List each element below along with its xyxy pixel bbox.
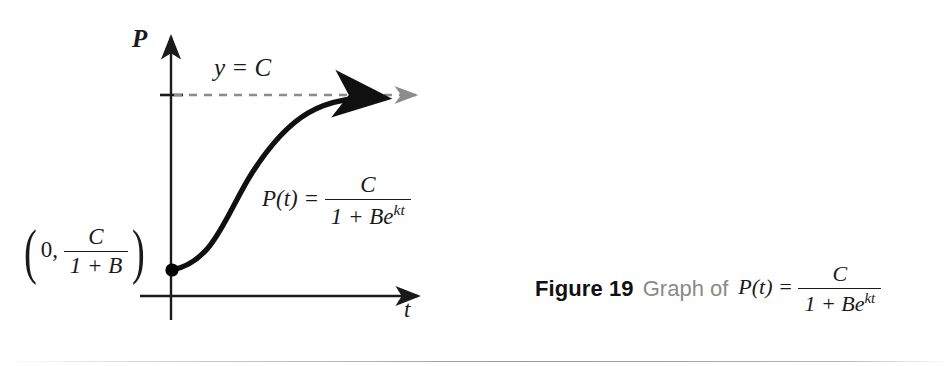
curve-equation: P(t) = C 1 + Bekt bbox=[262, 172, 411, 229]
y-intercept-point bbox=[165, 263, 178, 276]
right-paren: ) bbox=[132, 227, 145, 275]
curve-equation-denominator: 1 + Bekt bbox=[325, 199, 411, 229]
caption-equation-denominator-base: 1 + Be bbox=[804, 291, 864, 316]
page-divider-rule bbox=[0, 361, 952, 362]
asymptote-label: y = C bbox=[214, 55, 271, 80]
curve-equation-denominator-exponent: kt bbox=[394, 201, 405, 218]
caption-description: Graph of bbox=[643, 276, 729, 302]
caption-equation-lhs: P(t) = bbox=[738, 274, 793, 299]
caption-equation-denominator-exponent: kt bbox=[864, 290, 875, 306]
curve-equation-fraction: C 1 + Bekt bbox=[325, 172, 411, 229]
caption-equation: P(t) = C 1 + Bekt bbox=[738, 262, 881, 317]
curve-equation-lhs: P(t) = bbox=[262, 186, 319, 211]
caption-equation-fraction: C 1 + Bekt bbox=[798, 262, 881, 317]
point-label-denominator: 1 + B bbox=[64, 251, 129, 279]
caption-equation-numerator: C bbox=[798, 262, 881, 288]
caption-figure-number: Figure 19 bbox=[535, 276, 634, 302]
point-label-numerator: C bbox=[64, 224, 129, 251]
figure-page: P t y = C P(t) = C 1 + Bekt (0, C 1 + B … bbox=[0, 0, 952, 366]
curve-equation-numerator: C bbox=[325, 172, 411, 199]
t-axis-label: t bbox=[404, 298, 410, 321]
caption-equation-denominator: 1 + Bekt bbox=[798, 288, 881, 317]
point-label-x: 0, bbox=[41, 237, 58, 262]
curve-equation-denominator-base: 1 + Be bbox=[331, 203, 394, 228]
figure-caption: Figure 19 Graph of P(t) = C 1 + Bekt bbox=[535, 262, 881, 317]
p-axis-label: P bbox=[132, 26, 147, 51]
left-paren: ( bbox=[24, 227, 37, 275]
point-label-fraction: C 1 + B bbox=[64, 224, 129, 279]
y-intercept-label: (0, C 1 + B ) bbox=[20, 224, 149, 279]
